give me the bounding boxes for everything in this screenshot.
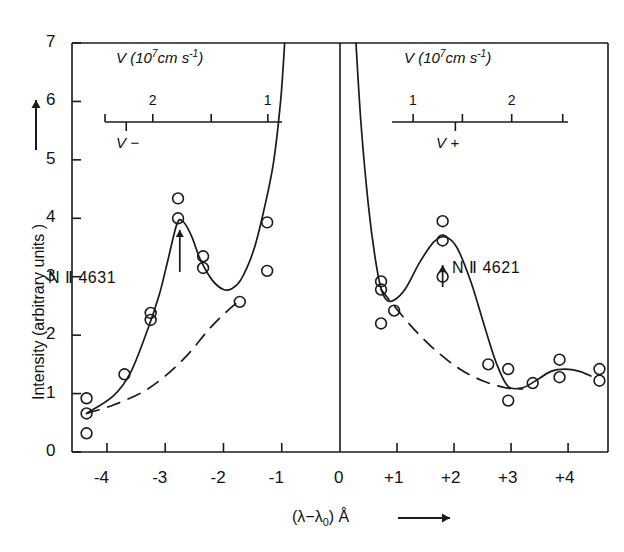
data-point — [81, 393, 92, 404]
data-point — [554, 354, 565, 365]
velocity-tick-label: 2 — [149, 92, 157, 108]
y-tick-label: 4 — [46, 207, 55, 227]
axis-arrows — [32, 100, 451, 523]
y-tick-label: 7 — [46, 32, 55, 52]
x-axis-label-main: (λ−λ — [292, 508, 323, 525]
data-point — [81, 428, 92, 439]
vel-left-mid: cm s — [158, 49, 190, 66]
x-tick-label-zero: 0 — [334, 468, 343, 488]
fitted-curve — [356, 43, 591, 389]
data-point — [234, 296, 245, 307]
x-tick-label: +4 — [555, 468, 574, 488]
velocity-scales — [105, 114, 568, 131]
x-tick-label: +2 — [441, 468, 460, 488]
data-point — [503, 364, 514, 375]
continuum-curve — [87, 300, 240, 413]
data-point — [262, 265, 273, 276]
vel-right-mid: cm s — [446, 49, 478, 66]
velocity-scale-title-left: V (107cm s-1) — [116, 48, 203, 66]
data-points — [81, 193, 605, 439]
velocity-scale-title-right: V (107cm s-1) — [404, 48, 491, 66]
figure-container: Intensity (arbitrary units ) (λ−λ0) Å N … — [0, 0, 624, 552]
x-axis-label-tail: ) Å — [329, 508, 349, 525]
velocity-tick-label: 2 — [508, 92, 516, 108]
velocity-tick-label: 1 — [409, 92, 417, 108]
data-point — [594, 364, 605, 375]
x-tick-label: -3 — [152, 468, 167, 488]
x-tick-label: -4 — [94, 468, 109, 488]
data-point — [262, 217, 273, 228]
vel-right-suffix: ) — [486, 49, 491, 66]
vel-left-prefix: V (10 — [116, 49, 152, 66]
vel-right-prefix: V (10 — [404, 49, 440, 66]
y-tick-label: 0 — [46, 441, 55, 461]
velocity-sign-label-right: V + — [436, 134, 459, 151]
vel-left-suffix: ) — [198, 49, 203, 66]
peak-marker-arrows — [176, 230, 447, 287]
x-tick-label: -2 — [210, 468, 225, 488]
data-point — [119, 369, 130, 380]
data-point — [503, 395, 514, 406]
x-axis-label: (λ−λ0) Å — [292, 508, 349, 528]
data-point — [594, 375, 605, 386]
data-point — [173, 193, 184, 204]
data-point — [437, 216, 448, 227]
velocity-sign-label-left: V − — [116, 134, 139, 151]
data-point — [554, 372, 565, 383]
vel-right-exp2: -1 — [477, 48, 486, 59]
data-point — [376, 318, 387, 329]
y-tick-label: 6 — [46, 90, 55, 110]
velocity-tick-label: 1 — [264, 92, 272, 108]
y-axis-label: Intensity (arbitrary units ) — [30, 224, 48, 400]
series-label-right: N Ⅱ 4621 — [452, 258, 520, 277]
y-tick-label: 3 — [46, 266, 55, 286]
y-tick-label: 5 — [46, 149, 55, 169]
x-tick-label: -1 — [269, 468, 284, 488]
vel-left-exp2: -1 — [189, 48, 198, 59]
data-point — [483, 359, 494, 370]
x-tick-label: +1 — [384, 468, 403, 488]
series-label-left: N Ⅱ 4631 — [48, 268, 116, 287]
x-tick-label: +3 — [498, 468, 517, 488]
y-tick-label: 1 — [46, 383, 55, 403]
y-tick-label: 2 — [46, 324, 55, 344]
